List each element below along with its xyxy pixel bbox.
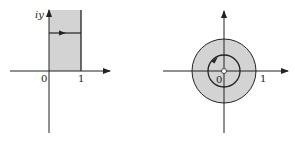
origin-label-left: 0 [41, 73, 47, 84]
origin-label-right: 0 [216, 74, 222, 85]
tick-label-left: 1 [78, 73, 84, 84]
shaded-strip [49, 10, 81, 71]
removed-origin-point [222, 69, 227, 74]
left-figure: iy 0 1 [10, 9, 110, 133]
tick-label-right: 1 [260, 73, 266, 84]
right-figure: 0 1 [163, 11, 288, 133]
y-axis-label-left: iy [35, 9, 44, 20]
diagram-canvas: iy 0 1 0 1 [0, 0, 295, 144]
